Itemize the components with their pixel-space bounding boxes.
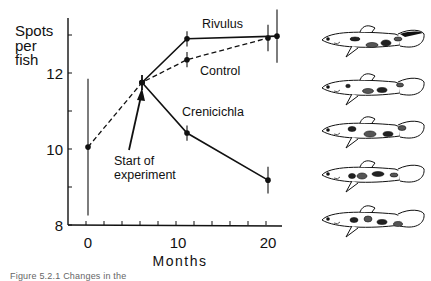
fish-drawing-2	[322, 74, 424, 105]
y-axis-label-line3: fish	[15, 51, 38, 68]
data-point	[85, 144, 91, 150]
data-point	[184, 57, 190, 63]
data-point	[184, 36, 190, 42]
fish-drawing-3	[322, 117, 424, 148]
x-axis-line	[68, 225, 282, 226]
data-point	[265, 35, 271, 41]
y-tick-label: 10	[46, 141, 63, 158]
series-label-rivulus: Rivulus	[202, 17, 243, 31]
data-point	[265, 177, 271, 183]
annotation-start-line2: experiment	[114, 168, 176, 182]
fish-drawing-5	[322, 206, 424, 237]
x-tick-label: 10	[170, 234, 187, 251]
data-point	[139, 80, 145, 86]
y-tick-label: 8	[55, 217, 63, 234]
series-label-control: Control	[200, 64, 240, 78]
series-label-crenicichla: Crenicichla	[182, 105, 244, 119]
data-point	[274, 33, 280, 39]
fish-drawing-1	[322, 26, 424, 57]
series-control	[85, 25, 271, 216]
figure-caption: Figure 5.2.1 Changes in the	[10, 271, 126, 281]
fish-drawing-4	[322, 161, 424, 192]
data-point	[184, 130, 190, 136]
x-tick-label: 0	[84, 234, 92, 251]
annotation-start-line1: Start of	[114, 154, 155, 168]
x-tick-label: 20	[260, 234, 277, 251]
axes: 8101201020	[46, 18, 282, 251]
x-axis-title: Months	[153, 253, 208, 269]
annotation-arrow	[129, 88, 145, 150]
fish-illustrations	[322, 26, 424, 237]
y-tick-label: 12	[46, 65, 63, 82]
